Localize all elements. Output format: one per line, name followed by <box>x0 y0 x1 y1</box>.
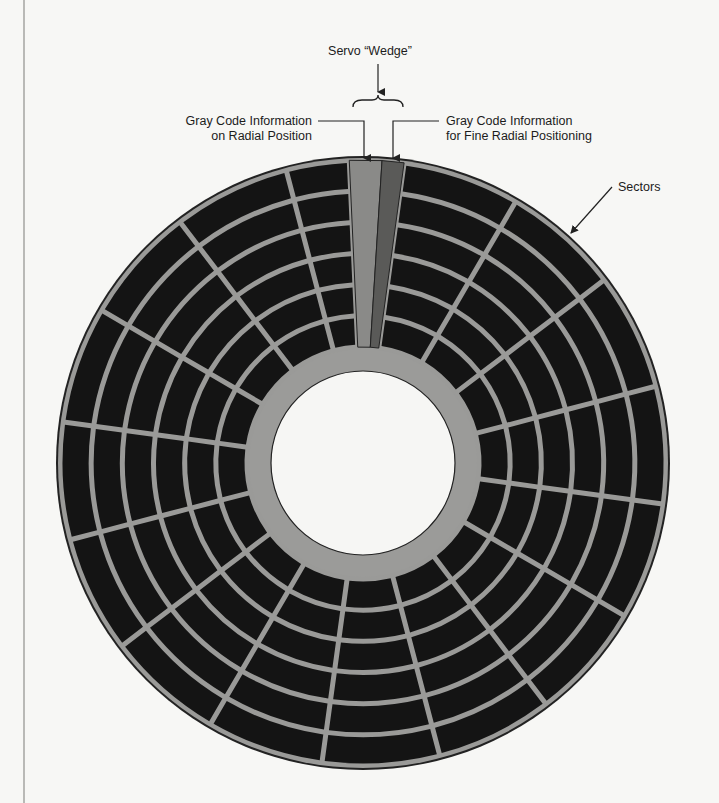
sector-cell <box>346 578 397 607</box>
sector-cell <box>508 421 538 485</box>
disk-servo-diagram: Servo “Wedge” Gray Code Information on R… <box>0 0 719 803</box>
sector-cell <box>313 256 352 287</box>
sectors-pointer <box>571 187 612 233</box>
disk-platter <box>56 156 670 770</box>
sector-cell <box>478 429 507 480</box>
gray-code-radial-label-line2: on Radial Position <box>211 129 312 143</box>
sector-cell <box>342 608 406 638</box>
servo-wedge-label: Servo “Wedge” <box>328 44 412 58</box>
gray-code-radial-label-line1: Gray Code Information <box>186 114 312 128</box>
servo-wedge-brace <box>353 95 403 107</box>
gray-code-fine-label-line2: for Fine Radial Positioning <box>446 129 592 143</box>
sectors-label: Sectors <box>618 180 660 194</box>
gray-code-fine-label-line1: Gray Code Information <box>446 114 572 128</box>
gray-code-fine-pointer <box>393 121 439 158</box>
gray-code-radial-pointer <box>318 121 364 158</box>
spindle-hole <box>271 371 455 555</box>
sector-cell <box>218 446 247 497</box>
sector-cell <box>187 442 217 506</box>
